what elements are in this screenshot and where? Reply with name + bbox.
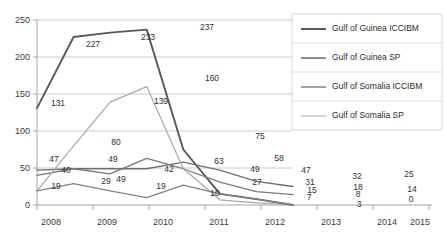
legend-label-gulf-of-guinea-iccibm[interactable]: Gulf of Guinea ICCIBM: [332, 23, 419, 33]
data-label-2: 233: [141, 32, 155, 42]
chart-legend: Gulf of Guinea ICCIBM Gulf of Guinea SP …: [292, 14, 442, 130]
data-label-20: 10: [210, 188, 220, 198]
data-label-27: 8: [356, 189, 361, 199]
line-chart: 250 200 150 100 50 0 2008 2009 2010 2011…: [0, 0, 447, 238]
data-label-12: 49: [108, 154, 118, 164]
x-tick-label-2014: 2014: [377, 217, 397, 227]
data-label-11: 47: [49, 154, 59, 164]
data-label-29: 25: [404, 169, 414, 179]
data-label-1: 227: [86, 39, 100, 49]
data-label-3: 237: [200, 22, 214, 32]
data-label-17: 29: [101, 176, 111, 186]
data-label-15: 63: [214, 156, 224, 166]
data-label-10: 47: [301, 165, 311, 175]
data-label-14: 42: [164, 164, 174, 174]
legend-label-gulf-of-guinea-sp[interactable]: Gulf of Guinea SP: [332, 52, 401, 62]
data-label-25: 32: [352, 171, 362, 181]
data-label-24: 7: [307, 192, 312, 202]
x-tick-label-2010: 2010: [153, 217, 173, 227]
legend-label-gulf-of-somalia-sp[interactable]: Gulf of Somalia SP: [332, 110, 404, 120]
gridlines: [37, 20, 292, 168]
data-label-16: 40: [61, 165, 71, 175]
x-tick-label-2013: 2013: [321, 217, 341, 227]
data-label-4: 160: [205, 73, 219, 83]
y-tick-label-50: 50: [20, 163, 30, 173]
x-tick-label-2011: 2011: [209, 217, 228, 227]
x-tick-label-2015: 2015: [410, 217, 430, 227]
x-tick-label-2008: 2008: [41, 217, 61, 227]
data-label-31: 0: [409, 194, 414, 204]
y-tick-label-150: 150: [15, 89, 30, 99]
data-label-13: 49: [116, 174, 126, 184]
data-label-7: 75: [255, 131, 265, 141]
data-label-0: 131: [51, 98, 65, 108]
y-tick-label-200: 200: [15, 52, 30, 62]
data-label-6: 80: [111, 137, 121, 147]
chart-canvas: 250 200 150 100 50 0 2008 2009 2010 2011…: [0, 0, 447, 238]
legend-label-gulf-of-somalia-iccibm[interactable]: Gulf of Somalia ICCIBM: [332, 81, 422, 91]
x-tick-label-2012: 2012: [265, 217, 285, 227]
x-tick-label-2009: 2009: [97, 217, 117, 227]
y-axis: 250 200 150 100 50 0: [15, 15, 37, 210]
data-label-5: 139: [154, 96, 168, 106]
data-label-28: 3: [357, 199, 362, 209]
data-label-8: 58: [274, 153, 284, 163]
x-axis: 2008 2009 2010 2011 2012 2013 2014 2015: [37, 205, 432, 227]
data-label-30: 14: [407, 184, 417, 194]
data-label-9: 49: [250, 164, 260, 174]
data-label-19: 19: [156, 181, 166, 191]
y-tick-label-100: 100: [15, 126, 30, 136]
y-tick-label-250: 250: [15, 15, 30, 25]
data-label-21: 27: [252, 177, 262, 187]
y-tick-label-0: 0: [25, 200, 30, 210]
data-label-18: 19: [51, 181, 61, 191]
